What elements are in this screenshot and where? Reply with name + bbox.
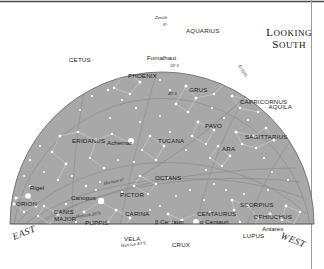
star-label-beta-centauri: β Centauri	[155, 218, 184, 225]
constellation-canis: CANIS	[54, 208, 74, 215]
star-label-alpha-centauri: α Centauri	[200, 218, 229, 225]
star-label-rigel: Rigel	[30, 184, 44, 191]
constellation-phoenix: PHOENIX	[128, 72, 157, 79]
star-label-achernar: Achernar	[107, 139, 132, 146]
constellation-ara: ARA	[222, 145, 236, 152]
zenith-label: Zenith	[155, 15, 168, 20]
constellation-major: MAJOR	[54, 215, 77, 222]
star-label-fomalhaut: Fomalhaut	[147, 54, 177, 61]
ecliptic-label: Ecliptic	[237, 63, 250, 78]
sky-chart: Zenith 0° 20°S 40°S Horizon 0° Horizon 2…	[0, 0, 324, 269]
title-line-looking: LOOKING	[266, 26, 312, 38]
title-text-looking: LOOKING	[266, 28, 312, 38]
constellation-carina: CARINA	[125, 210, 150, 217]
constellation-lupus: LUPUS	[243, 232, 264, 239]
constellation-ophiuchus: OPHIUCHUS	[254, 213, 292, 220]
constellation-crux: CRUX	[172, 241, 190, 248]
title-line-south: SOUTH	[266, 38, 312, 50]
constellation-tucana: TUCANA	[158, 137, 185, 144]
constellation-orion: ORION	[16, 200, 37, 207]
constellation-eridanus: ERIDANUS	[72, 137, 105, 144]
star-label-canopus: Canopus	[71, 194, 96, 201]
constellation-centaurus: CENTAURUS	[197, 210, 236, 217]
constellation-aquarius: AQUARIUS	[186, 27, 220, 34]
altitude-label-20s: 20°S	[170, 63, 179, 68]
constellation-pavo: PAVO	[205, 122, 222, 129]
compass-west-label: WEST	[279, 231, 307, 250]
zenith-value: 0°	[163, 22, 167, 27]
compass-east-label: EAST	[10, 224, 37, 243]
constellation-aquila: AQUILA	[268, 103, 292, 110]
constellation-octans: OCTANS	[155, 174, 181, 181]
chart-title: LOOKING SOUTH	[266, 26, 312, 51]
constellation-vela: VELA	[124, 235, 141, 242]
altitude-label-40s: 40°S	[168, 91, 177, 96]
constellation-cetus: CETUS	[69, 56, 91, 63]
constellation-pictor: PICTOR	[120, 191, 145, 198]
constellation-puppis: PUPPIS	[85, 219, 109, 226]
star-label-antares: Antares	[262, 225, 283, 232]
title-text-south: SOUTH	[272, 40, 306, 50]
constellation-grus: GRUS	[189, 86, 207, 93]
constellation-sagittarius: SAGITTARIUS	[245, 133, 287, 140]
constellation-scorpius: SCORPIUS	[240, 201, 274, 208]
